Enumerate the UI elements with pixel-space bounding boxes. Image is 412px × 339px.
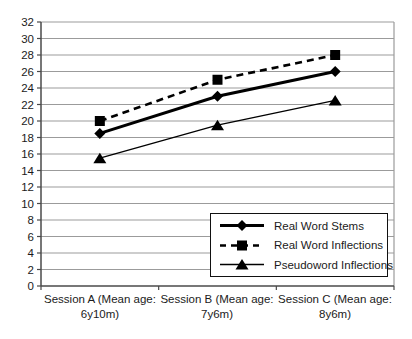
- legend-item-real-word-stems: Real Word Stems: [219, 218, 387, 234]
- triangle-marker: [329, 95, 342, 106]
- square-marker: [95, 116, 105, 126]
- y-axis-tick-label: 10: [21, 198, 34, 210]
- legend-item-pseudoword-inflections: Pseudoword Inflections: [219, 257, 387, 273]
- x-axis-label-session-b: Session B (Mean age: 7y6m): [157, 292, 277, 322]
- square-dashed-line-icon: [219, 239, 265, 252]
- x-axis-label-session-a: Session A (Mean age: 6y10m): [40, 292, 160, 322]
- line-chart-figure: 02468101214161820222426283032 Real Word …: [0, 0, 412, 339]
- plot-area: 02468101214161820222426283032: [0, 0, 412, 339]
- legend-label: Pseudoword Inflections: [274, 259, 393, 271]
- y-axis-tick-label: 4: [28, 247, 35, 259]
- y-axis-tick-label: 14: [21, 165, 34, 177]
- y-axis-tick-label: 18: [21, 132, 34, 144]
- legend-item-real-word-inflections: Real Word Inflections: [219, 237, 387, 253]
- legend-label: Real Word Inflections: [274, 239, 383, 251]
- square-marker: [213, 75, 223, 85]
- y-axis-tick-label: 20: [21, 115, 34, 127]
- y-axis-tick-label: 12: [21, 181, 34, 193]
- legend-label: Real Word Stems: [274, 220, 364, 232]
- diamond-solid-line-icon: [219, 219, 265, 232]
- triangle-thin-line-icon: [219, 258, 265, 271]
- y-axis-tick-label: 16: [21, 148, 34, 160]
- y-axis-tick-label: 8: [28, 214, 34, 226]
- diamond-marker: [330, 66, 341, 77]
- y-axis-tick-label: 0: [28, 280, 34, 292]
- diamond-marker: [212, 91, 223, 102]
- y-axis-tick-label: 32: [21, 16, 34, 28]
- y-axis-tick-label: 30: [21, 33, 34, 45]
- y-axis-tick-label: 24: [21, 82, 34, 94]
- y-axis-tick-label: 26: [21, 66, 34, 78]
- y-axis-tick-label: 28: [21, 49, 34, 61]
- y-axis-tick-label: 2: [28, 264, 34, 276]
- y-axis-tick-label: 22: [21, 99, 34, 111]
- x-axis-label-session-c: Session C (Mean age: 8y6m): [275, 292, 395, 322]
- legend: Real Word Stems Real Word Inflections Ps…: [210, 213, 388, 277]
- y-axis-tick-label: 6: [28, 231, 34, 243]
- square-marker: [330, 50, 340, 60]
